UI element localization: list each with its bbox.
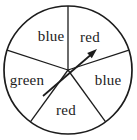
spinner-figure: blue red blue red green bbox=[0, 0, 137, 140]
sector-label-green-left: green bbox=[10, 73, 44, 88]
sector-label-blue-top-left: blue bbox=[38, 29, 65, 44]
sector-label-red-top-right: red bbox=[80, 30, 100, 45]
sector-label-red-bottom: red bbox=[56, 103, 76, 118]
spinner-wheel bbox=[0, 0, 137, 140]
spinner-arrow-icon bbox=[43, 49, 97, 96]
sector-label-blue-right: blue bbox=[95, 73, 122, 88]
sector-divider-upper-left bbox=[7, 50, 68, 70]
